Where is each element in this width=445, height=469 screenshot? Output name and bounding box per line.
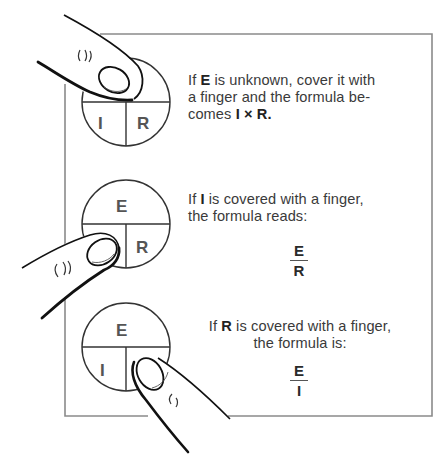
circle-2-label-e: E — [116, 197, 127, 216]
circle-2-label-r: R — [136, 238, 148, 257]
panel-3-line-2: the formula is: — [182, 335, 418, 352]
panel-2-denominator: R — [284, 261, 314, 279]
panel-3-var: R — [221, 318, 232, 334]
panel-1-line-3: comes I × R. — [188, 106, 428, 123]
panel-2-line-2: the formula reads: — [188, 208, 428, 225]
circle-1-label-r: R — [137, 114, 149, 133]
finger-3-icon — [131, 353, 230, 452]
circle-3-label-e: E — [116, 321, 127, 340]
panel-1-var: E — [200, 72, 210, 88]
panel-3-caption: If R is covered with a finger, the formu… — [182, 318, 418, 352]
panel-3-denominator: I — [284, 381, 314, 399]
panel-1-caption: If E is unknown, cover it with a finger … — [188, 72, 428, 123]
circle-3-label-i: I — [100, 361, 105, 380]
finger-1-icon — [36, 14, 143, 101]
panel-2-numerator: E — [290, 242, 308, 261]
panel-3-line-1: If R is covered with a finger, — [182, 318, 418, 335]
panel-1-line-1: If E is unknown, cover it with — [188, 72, 428, 89]
panel-3-numerator: E — [290, 362, 308, 381]
panel-2-line-1: If I is covered with a finger, — [188, 191, 428, 208]
panel-2-fraction: E R — [284, 242, 314, 279]
panel-2-caption: If I is covered with a finger, the formu… — [188, 191, 428, 225]
panel-1-line-2: a finger and the formula be- — [188, 89, 428, 106]
panel-1-formula: I × R — [236, 106, 268, 122]
circle-1-label-i: I — [98, 114, 103, 133]
diagram-artwork: I R E R E I — [0, 0, 445, 469]
panel-3-fraction: E I — [284, 362, 314, 399]
finger-2-icon — [20, 233, 122, 318]
